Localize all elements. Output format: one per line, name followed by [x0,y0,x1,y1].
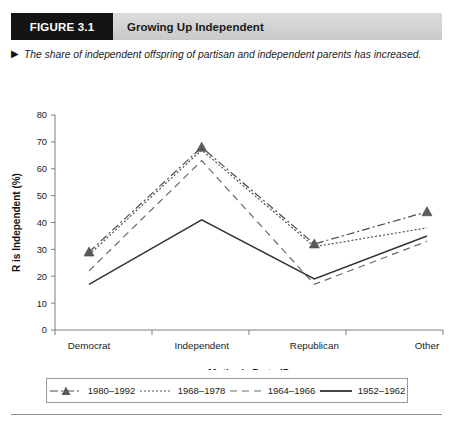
legend-label: 1964–1966 [268,385,316,396]
series-line [89,150,427,255]
series-line [89,220,427,285]
y-axis-tick-label: 50 [37,191,47,201]
y-axis-tick-label: 0 [42,325,47,335]
chart-axes [51,115,443,335]
x-axis-category-label: Democrat [68,340,111,351]
legend-label: 1980–1992 [88,385,136,396]
x-axis-category-label: Republican [290,340,339,351]
y-axis-tick-label: 20 [37,272,47,282]
caption-text: The share of independent offspring of pa… [24,48,423,63]
x-axis-title: Mother's Party ID [208,368,290,370]
y-axis-tick-label: 10 [37,299,47,309]
legend-label: 1968–1978 [178,385,226,396]
legend-swatch-solid [319,385,353,397]
legend-item: 1964–1966 [229,385,316,397]
legend-item: 1952–1962 [319,385,406,397]
y-axis-tick-label: 70 [37,137,47,147]
figure-title: Growing Up Independent [113,13,264,40]
caption-arrow-icon: ▶ [11,48,24,59]
bottom-divider [11,414,442,415]
legend-label: 1952–1962 [358,385,406,396]
y-axis-tick-label: 60 [37,164,47,174]
y-axis-tick-label: 80 [37,110,47,120]
legend-item: 1968–1978 [139,385,226,397]
chart-container: 01020304050607080DemocratIndependentRepu… [0,100,453,370]
chart-legend: 1980–19921968–19781964–19661952–1962 [46,378,408,403]
x-axis-category-label: Other [415,340,440,351]
legend-swatch-dashed [229,385,263,397]
series-line [89,161,427,285]
chart-labels: 01020304050607080DemocratIndependentRepu… [11,110,440,370]
legend-swatch-dash-dot [49,385,83,397]
legend-swatch-dotted [139,385,173,397]
figure-number-tag: FIGURE 3.1 [11,13,113,40]
y-axis-title: R is Independent (%) [11,173,22,272]
legend-item: 1980–1992 [49,385,136,397]
figure-header-bar: FIGURE 3.1 Growing Up Independent [11,13,442,40]
figure-caption: ▶ The share of independent offspring of … [11,48,439,63]
line-chart: 01020304050607080DemocratIndependentRepu… [0,100,453,370]
x-axis-category-label: Independent [174,340,229,351]
chart-series [84,142,432,284]
y-axis-tick-label: 30 [37,245,47,255]
y-axis-tick-label: 40 [37,218,47,228]
series-marker-triangle [422,207,432,216]
